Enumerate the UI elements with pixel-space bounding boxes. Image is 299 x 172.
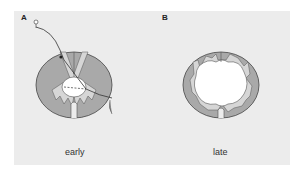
spinal-cord-diagram xyxy=(0,0,299,172)
caption-early: early xyxy=(65,147,85,157)
caption-late: late xyxy=(213,147,228,157)
cross-section-early xyxy=(34,20,112,118)
panel-label-a: A xyxy=(21,13,27,22)
panel-label-b: B xyxy=(162,13,168,22)
cross-section-late xyxy=(183,52,259,118)
